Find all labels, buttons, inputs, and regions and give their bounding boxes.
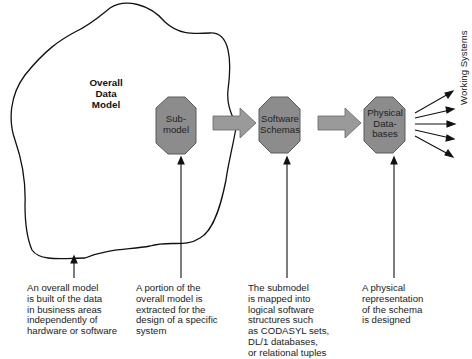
submodel-label: Sub- model bbox=[156, 114, 196, 135]
pointer-lines bbox=[71, 157, 397, 278]
software-schemas-label: Software Schemas bbox=[257, 114, 303, 135]
caption-software-schemas: The submodel is mapped into logical soft… bbox=[248, 283, 329, 359]
caption-submodel: A portion of the overall model is extrac… bbox=[136, 283, 218, 337]
working-systems-label: Working Systems bbox=[458, 31, 469, 105]
overall-data-model-title: Overall Data Model bbox=[66, 77, 146, 110]
caption-overall-model: An overall model is built of the data in… bbox=[27, 283, 117, 337]
overall-data-model-blob bbox=[11, 3, 236, 258]
physical-databases-label: Physical Data- bases bbox=[362, 108, 408, 140]
working-systems-arrows bbox=[415, 91, 455, 157]
block-arrow-schemas-to-physical bbox=[318, 108, 361, 138]
caption-physical-databases: A physical representation of the schema … bbox=[362, 283, 423, 326]
